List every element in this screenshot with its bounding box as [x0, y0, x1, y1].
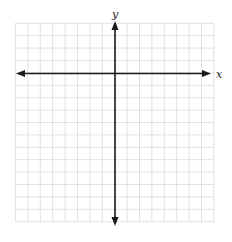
arrow-right-icon [202, 70, 211, 77]
arrow-left-icon [16, 70, 25, 77]
x-axis [16, 70, 211, 77]
coordinate-plane: y x [0, 0, 232, 242]
x-axis-label: x [216, 68, 223, 81]
y-axis [112, 21, 119, 226]
y-axis-label: y [111, 8, 119, 21]
arrow-up-icon [112, 21, 119, 30]
